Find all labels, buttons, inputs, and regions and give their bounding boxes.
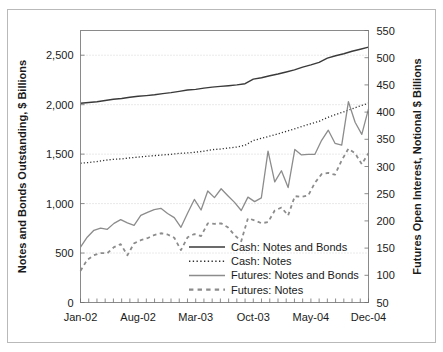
right-axis-title: Futures Open Interest, Notional $ Billio… bbox=[411, 58, 423, 274]
right-tick-label: 150 bbox=[377, 242, 395, 254]
right-tick-label: 500 bbox=[377, 52, 395, 64]
plot-area-frame bbox=[81, 31, 369, 303]
left-tick-label: 1,000 bbox=[46, 198, 74, 210]
right-tick-label: 550 bbox=[377, 25, 395, 37]
x-tick-label: May-04 bbox=[293, 311, 330, 323]
left-tick-label: 2,000 bbox=[46, 99, 74, 111]
right-tick-label: 300 bbox=[377, 161, 395, 173]
figure-container: 05001,0001,5002,0002,500 501001502002503… bbox=[0, 0, 443, 352]
x-tick-label: Jan-02 bbox=[64, 311, 98, 323]
x-tick-label: Aug-02 bbox=[120, 311, 155, 323]
x-tick-label: Dec-04 bbox=[351, 311, 386, 323]
right-tick-label: 450 bbox=[377, 79, 395, 91]
x-tick-label: Oct-03 bbox=[237, 311, 270, 323]
chart-legend: Cash: Notes and BondsCash: NotesFutures:… bbox=[189, 241, 359, 296]
right-tick-label: 200 bbox=[377, 215, 395, 227]
right-tick-label: 400 bbox=[377, 106, 395, 118]
legend-label: Cash: Notes bbox=[231, 255, 292, 267]
right-tick-label: 50 bbox=[377, 297, 389, 309]
left-tick-label: 1,500 bbox=[46, 148, 74, 160]
legend-label: Cash: Notes and Bonds bbox=[231, 241, 348, 253]
legend-label: Futures: Notes and Bonds bbox=[231, 269, 359, 281]
x-tick-label: Mar-03 bbox=[178, 311, 213, 323]
right-tick-label: 250 bbox=[377, 188, 395, 200]
axis-tickmarks bbox=[81, 31, 369, 303]
left-tick-label: 500 bbox=[55, 247, 73, 259]
right-tick-label: 350 bbox=[377, 133, 395, 145]
left-tick-label: 0 bbox=[67, 297, 73, 309]
series-lines bbox=[81, 47, 369, 271]
right-axis-tick-labels: 50100150200250300350400450500550 bbox=[377, 25, 395, 309]
legend-label: Futures: Notes bbox=[231, 284, 304, 296]
gridlines bbox=[81, 55, 369, 253]
left-axis-title: Notes and Bonds Outstanding, $ Billions bbox=[16, 60, 28, 273]
x-axis-tick-labels: Jan-02Aug-02Mar-03Oct-03May-04Dec-04 bbox=[64, 311, 387, 323]
left-tick-label: 2,500 bbox=[46, 49, 74, 61]
chart-canvas: 05001,0001,5002,0002,500 501001502002503… bbox=[0, 0, 443, 352]
right-tick-label: 100 bbox=[377, 269, 395, 281]
left-axis-tick-labels: 05001,0001,5002,0002,500 bbox=[46, 49, 74, 308]
